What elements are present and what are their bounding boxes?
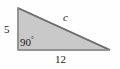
hypotenuse-variable-label: c bbox=[63, 12, 68, 23]
horizontal-leg-length-label: 12 bbox=[55, 54, 66, 65]
degree-symbol-icon: ° bbox=[31, 35, 34, 43]
right-angle-label: 90° bbox=[20, 36, 34, 48]
geometry-figure: 5 90° c 12 bbox=[0, 0, 120, 69]
vertical-leg-length-label: 5 bbox=[4, 24, 10, 35]
right-angle-value: 90 bbox=[20, 36, 31, 48]
